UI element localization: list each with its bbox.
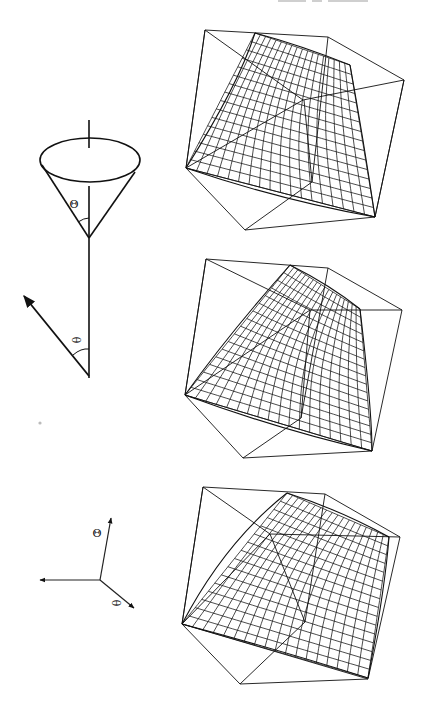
vector-angle-arc xyxy=(73,349,89,355)
wireframe-panel-bottom xyxy=(182,487,400,684)
vector-angle-label: θ xyxy=(71,336,84,343)
wireframe-panel-top xyxy=(186,30,404,230)
wireframe-panel-middle xyxy=(185,259,402,458)
triad-label-lower: θ xyxy=(111,599,124,606)
cone-angle-label: Θ xyxy=(69,198,78,211)
figure-canvas: Θ θ Θ θ xyxy=(0,0,426,723)
scan-speck xyxy=(38,421,41,424)
cone-angle-arc xyxy=(78,218,89,222)
cone-rim xyxy=(40,138,140,182)
cone-side-left xyxy=(42,165,89,238)
vector-arrow xyxy=(24,296,89,376)
triad-axis-up xyxy=(100,518,111,580)
axis-triad xyxy=(40,518,134,608)
cone-diagram xyxy=(40,120,140,378)
vector-diagram xyxy=(24,296,89,376)
triad-label-upper: Θ xyxy=(92,527,101,540)
paper-page: Θ θ Θ θ xyxy=(0,0,426,723)
